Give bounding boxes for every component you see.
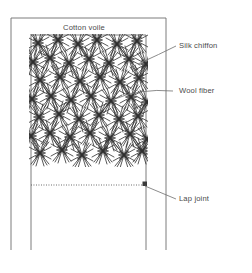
label-cotton-voile: Cotton voile <box>63 23 105 32</box>
label-silk-chiffon: Silk chiffon <box>179 41 217 50</box>
label-wool-fiber: Wool fiber <box>179 86 215 95</box>
textile-cross-section-diagram: Cotton voile Silk chiffon Wool fiber Lap… <box>0 0 252 273</box>
label-lap-joint: Lap joint <box>179 194 210 203</box>
lap-joint-seam <box>31 182 147 187</box>
lap-joint-marker <box>143 182 148 187</box>
diagram-canvas: Cotton voile Silk chiffon Wool fiber Lap… <box>0 0 252 273</box>
wool-fiber-fill <box>20 27 158 168</box>
lap-joint-leader <box>145 186 176 199</box>
